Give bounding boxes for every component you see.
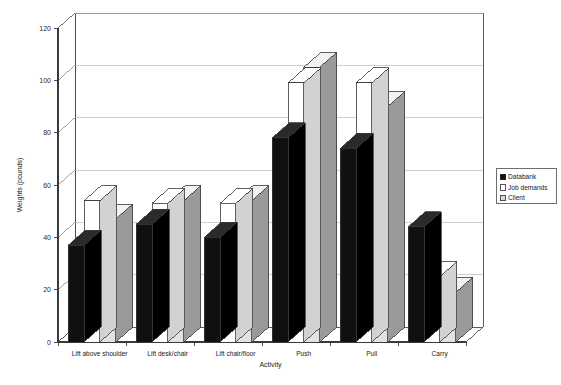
x-category-label: Push [296, 350, 311, 357]
bar-side-face [356, 133, 373, 342]
legend-swatch [500, 174, 506, 180]
legend-item-label: Databank [508, 173, 537, 180]
bar-side-face [388, 92, 405, 343]
bar-front-face [272, 138, 288, 342]
bar [204, 222, 237, 342]
legend-swatch [500, 195, 506, 201]
bar [272, 123, 305, 342]
bar-side-face [168, 188, 185, 342]
bar-front-face [136, 224, 152, 342]
bar-side-face [236, 188, 253, 342]
bar-side-face [252, 186, 269, 342]
x-category-label: Carry [432, 350, 449, 358]
legend-item[interactable]: Client [500, 194, 525, 201]
y-tick-label: 100 [39, 77, 51, 84]
legend-item[interactable]: Databank [500, 173, 537, 180]
bar-side-face [372, 68, 389, 342]
bar [68, 230, 101, 342]
bar-side-face [116, 204, 133, 342]
y-tick-label: 0 [47, 339, 51, 346]
bar-front-face [340, 148, 356, 342]
x-category-label: Pull [366, 350, 378, 357]
bar-side-face [288, 123, 305, 342]
y-tick-label: 60 [43, 182, 51, 189]
legend-item-label: Client [508, 194, 525, 201]
y-tick-label: 80 [43, 129, 51, 136]
bar-side-face [184, 186, 201, 342]
chart-container: 020406080100120Lift above shoulderLift d… [0, 0, 561, 385]
bar-side-face [152, 209, 169, 342]
bar [340, 133, 373, 342]
bar-side-face [320, 52, 337, 342]
bar-front-face [204, 237, 220, 342]
y-tick-label: 40 [43, 234, 51, 241]
bar-chart: 020406080100120Lift above shoulderLift d… [0, 0, 561, 385]
bar-side-face [100, 186, 117, 342]
bar-side-face [84, 230, 101, 342]
y-tick-label: 20 [43, 286, 51, 293]
bar [136, 209, 169, 342]
y-axis-title: Weights (pounds) [16, 158, 24, 213]
bar-side-face [424, 212, 441, 342]
legend-swatch [500, 185, 506, 191]
legend[interactable]: DatabankJob demandsClient [496, 168, 556, 203]
bar-front-face [408, 227, 424, 342]
x-category-label: Lift above shoulder [72, 350, 129, 357]
x-category-label: Lift chair/floor [216, 350, 256, 357]
y-tick-label: 120 [39, 25, 51, 32]
legend-item-label: Job demands [508, 184, 548, 191]
bar-front-face [68, 245, 84, 342]
bar-side-face [220, 222, 237, 342]
bar [408, 212, 441, 342]
x-axis-title: Activity [259, 361, 282, 369]
x-category-label: Lift desk/chair [147, 350, 188, 357]
bar-side-face [304, 68, 321, 342]
x-axis-labels: Lift above shoulderLift desk/chairLift c… [58, 342, 466, 358]
legend-item[interactable]: Job demands [500, 184, 548, 191]
